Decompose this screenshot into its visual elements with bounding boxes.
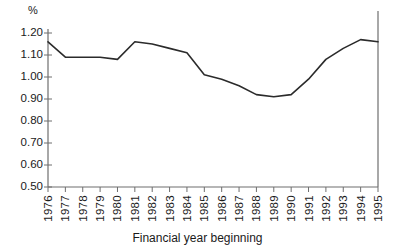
x-axis-tick-label: 1986: [216, 195, 228, 222]
line-chart: % 1.201.101.000.900.800.700.600.50 19761…: [0, 0, 395, 248]
x-axis-tick-label: 1983: [164, 195, 176, 222]
x-axis-tick-label: 1989: [268, 195, 280, 222]
x-axis-tick-label: 1977: [59, 195, 71, 222]
x-axis-tick-label: 1995: [372, 195, 384, 222]
x-axis-tick-label: 1994: [355, 195, 367, 222]
x-axis-tick-label: 1993: [337, 195, 349, 222]
x-axis-tick-labels: 1976197719781979198019811982198319841985…: [0, 0, 395, 248]
x-axis-title: Financial year beginning: [0, 231, 395, 245]
x-axis-tick-label: 1991: [303, 195, 315, 222]
x-axis-tick-label: 1988: [250, 195, 262, 222]
x-axis-tick-label: 1990: [285, 195, 297, 222]
x-axis-tick-label: 1981: [129, 195, 141, 222]
x-axis-tick-label: 1985: [198, 195, 210, 222]
x-axis-tick-label: 1982: [146, 195, 158, 222]
x-axis-tick-label: 1979: [94, 195, 106, 222]
x-axis-tick-label: 1976: [42, 195, 54, 222]
x-axis-tick-label: 1984: [181, 195, 193, 222]
x-axis-tick-label: 1980: [111, 195, 123, 222]
x-axis-tick-label: 1978: [77, 195, 89, 222]
x-axis-tick-label: 1992: [320, 195, 332, 222]
x-axis-tick-label: 1987: [233, 195, 245, 222]
